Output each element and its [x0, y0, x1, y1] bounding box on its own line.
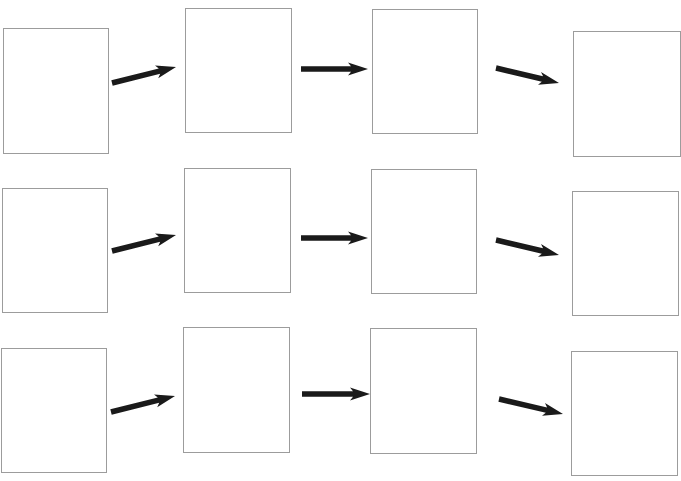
row-2-arrow-1-icon	[111, 234, 176, 254]
flow-diagram	[0, 0, 681, 481]
row-1-box-4	[573, 31, 681, 157]
row-2-box-3	[371, 169, 477, 294]
row-2-arrow-2-icon	[301, 232, 368, 245]
row-2-box-1	[2, 188, 108, 313]
row-3-box-3	[370, 328, 477, 454]
row-3-arrow-2-icon	[302, 388, 370, 401]
row-2-arrow-3-icon	[495, 237, 559, 256]
row-3-arrow-3-icon	[498, 396, 563, 416]
row-1-box-3	[372, 9, 478, 134]
row-3-arrow-1-icon	[110, 395, 175, 415]
row-1-box-2	[185, 8, 292, 133]
row-3-box-1	[1, 348, 107, 473]
row-3-box-2	[183, 327, 290, 453]
row-1-box-1	[3, 28, 109, 154]
row-1-arrow-2-icon	[301, 63, 368, 76]
row-1-arrow-1-icon	[111, 66, 176, 86]
row-1-arrow-3-icon	[495, 65, 559, 84]
row-3-box-4	[571, 351, 678, 476]
row-2-box-4	[572, 191, 679, 316]
row-2-box-2	[184, 168, 291, 293]
